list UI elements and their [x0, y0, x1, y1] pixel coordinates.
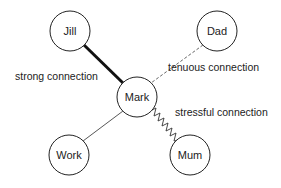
node-label-mark: Mark	[125, 91, 150, 103]
edge-normal-work-mark	[83, 111, 123, 141]
label-tenuous-connection: tenuous connection	[168, 61, 259, 73]
label-stressful-connection: stressful connection	[175, 106, 268, 118]
node-mum: Mum	[170, 135, 210, 175]
node-label-dad: Dad	[207, 25, 227, 37]
node-dad: Dad	[197, 11, 237, 51]
label-strong-connection: strong connection	[15, 70, 98, 82]
node-label-work: Work	[56, 149, 82, 161]
node-jill: Jill	[50, 11, 90, 51]
node-label-mum: Mum	[178, 149, 202, 161]
node-work: Work	[49, 135, 89, 175]
node-label-jill: Jill	[64, 25, 77, 37]
node-mark: Mark	[117, 77, 157, 117]
relationship-diagram: Jill Dad Mark Work Mum strong connection…	[0, 0, 281, 188]
